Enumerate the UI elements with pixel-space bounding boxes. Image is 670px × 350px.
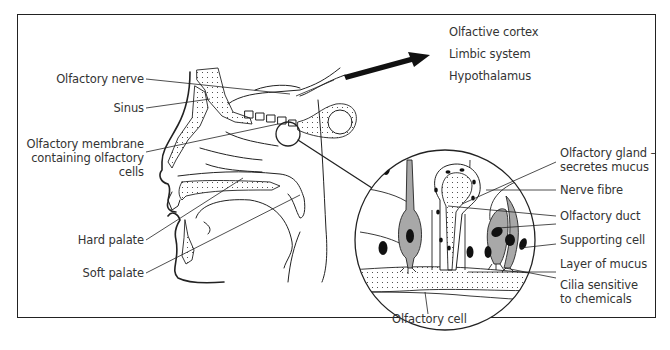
label-olfactory-membrane-3: cells	[20, 165, 144, 179]
label-layer-of-mucus: Layer of mucus	[560, 257, 647, 271]
label-cilia-1: Cilia sensitive	[560, 278, 638, 292]
head-section	[160, 68, 372, 283]
label-hard-palate: Hard palate	[36, 233, 144, 247]
cribriform-plate	[245, 111, 296, 126]
label-soft-palate: Soft palate	[36, 266, 144, 280]
label-sinus: Sinus	[36, 101, 144, 115]
label-hypothalamus: Hypothalamus	[449, 69, 531, 83]
label-olfactory-membrane-2: containing olfactory	[20, 151, 144, 165]
label-nerve-fibre: Nerve fibre	[560, 183, 623, 197]
epithelium-detail	[350, 150, 540, 330]
label-olfactory-duct: Olfactory duct	[560, 209, 640, 223]
label-olfactory-gland-1: Olfactory gland –	[560, 146, 656, 160]
label-olfactory-gland-2: secretes mucus	[560, 160, 649, 174]
label-olfactory-nerve: Olfactory nerve	[36, 72, 144, 86]
pathway-arrow	[344, 52, 430, 80]
nerve-to-arrow-line	[296, 80, 334, 96]
label-cilia-2: to chemicals	[560, 292, 632, 306]
label-olfactive-cortex: Olfactive cortex	[449, 25, 539, 39]
label-limbic-system: Limbic system	[449, 47, 531, 61]
label-supporting-cell: Supporting cell	[560, 233, 645, 247]
label-olfactory-cell: Olfactory cell	[392, 312, 467, 326]
label-olfactory-membrane-1: Olfactory membrane	[20, 137, 144, 151]
